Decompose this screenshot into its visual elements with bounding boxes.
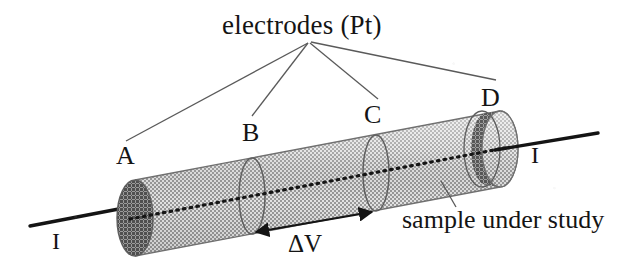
page-title: electrodes (Pt) (222, 12, 382, 39)
voltage-difference-label: ΔV (288, 231, 322, 256)
electrode-label-a: A (116, 143, 135, 169)
current-label-right: I (531, 143, 539, 167)
current-label-left: I (52, 229, 60, 253)
leader-line-to-c (310, 43, 378, 99)
leader-line-to-a (126, 43, 308, 141)
electrode-label-b: B (242, 120, 259, 146)
electrode-diagram-figure: electrodes (Pt) A B C D I I ΔV sample un… (0, 0, 630, 265)
sample-annotation-label: sample under study (402, 207, 604, 233)
electrode-a-end-cap (117, 180, 153, 256)
leader-line-to-b (252, 43, 308, 116)
electrode-label-c: C (364, 102, 381, 128)
leader-line-to-d (311, 42, 496, 80)
electrode-label-d: D (481, 85, 500, 111)
